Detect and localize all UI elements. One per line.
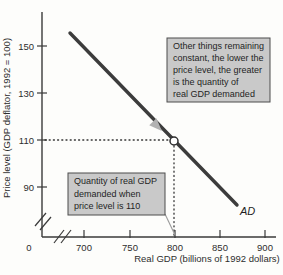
- bottom-annotation-line3: price level is 110: [74, 201, 140, 211]
- y-tick-130: 130: [18, 88, 34, 99]
- top-annotation-line5: real GDP demanded: [173, 89, 255, 99]
- bottom-annotation-line2: demanded when: [74, 189, 141, 199]
- x-tick-750: 750: [122, 242, 138, 253]
- y-axis-title: Price level (GDP deflator, 1992 = 100): [1, 38, 12, 198]
- x-tick-900: 900: [257, 242, 273, 253]
- top-annotation-line4: is the quantity of: [173, 77, 239, 87]
- ad-curve-label: AD: [239, 205, 255, 217]
- ad-curve-figure: 150 130 110 90 0 700 750 800 850 900 Rea…: [0, 0, 283, 275]
- x-axis-title: Real GDP (billions of 1992 dollars): [134, 253, 280, 264]
- top-annotation-line1: Other things remaining: [173, 41, 264, 51]
- y-axis-break-icon: [35, 213, 51, 230]
- y-tick-110: 110: [19, 135, 34, 146]
- x-tick-0: 0: [26, 242, 31, 253]
- bottom-annotation-line1: Quantity of real GDP: [74, 176, 157, 186]
- top-annotation-line3: price level, the greater: [173, 65, 262, 75]
- y-tick-90: 90: [23, 182, 34, 193]
- marked-point-circle: [170, 137, 178, 145]
- x-tick-700: 700: [76, 242, 92, 253]
- direction-arrow-icon: [149, 118, 165, 134]
- ad-demand-curve-chart: 150 130 110 90 0 700 750 800 850 900 Rea…: [0, 0, 283, 275]
- x-tick-800: 800: [167, 242, 183, 253]
- top-annotation-line2: constant, the lower the: [173, 53, 264, 63]
- top-annotation-box: Other things remaining constant, the low…: [167, 38, 270, 102]
- y-tick-150: 150: [18, 41, 34, 52]
- bottom-annotation-box: Quantity of real GDP demanded when price…: [68, 173, 175, 235]
- x-tick-850: 850: [212, 242, 228, 253]
